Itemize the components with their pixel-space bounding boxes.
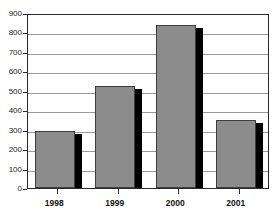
bar-shadow <box>196 28 203 188</box>
y-tick-label: 900 <box>9 10 22 18</box>
y-axis: 0100200300400500600700800900 <box>0 0 25 219</box>
y-tick-mark <box>23 72 27 73</box>
y-tick-label: 700 <box>9 49 22 57</box>
bar-1999 <box>95 86 135 188</box>
x-tick-mark <box>178 189 179 194</box>
chart-title-cropped <box>0 0 275 8</box>
y-tick-label: 300 <box>9 127 22 135</box>
bar-face <box>156 25 196 188</box>
plot-area <box>27 14 269 189</box>
bar-face <box>95 86 135 188</box>
y-tick-mark <box>23 170 27 171</box>
x-tick-label-1999: 1999 <box>105 198 124 208</box>
bar-2001 <box>216 120 256 188</box>
y-tick-label: 500 <box>9 88 22 96</box>
y-tick-mark <box>23 111 27 112</box>
y-tick-mark <box>23 14 27 15</box>
bar-shadow <box>256 123 263 188</box>
y-tick-mark <box>23 150 27 151</box>
bar-1998 <box>35 131 75 188</box>
bar-shadow <box>75 134 82 188</box>
x-tick-mark <box>118 189 119 194</box>
y-tick-label: 400 <box>9 107 22 115</box>
y-tick-mark <box>23 92 27 93</box>
y-tick-label: 0 <box>18 185 22 193</box>
y-tick-mark <box>23 189 27 190</box>
y-tick-label: 800 <box>9 29 22 37</box>
y-tick-label: 200 <box>9 146 22 154</box>
x-tick-label-1998: 1998 <box>45 198 64 208</box>
x-tick-mark <box>239 189 240 194</box>
y-tick-mark <box>23 53 27 54</box>
bar-2000 <box>156 25 196 188</box>
bar-chart-figure: 0100200300400500600700800900 19981999200… <box>0 0 275 219</box>
bar-face <box>35 131 75 188</box>
y-tick-mark <box>23 33 27 34</box>
bars-series <box>28 15 268 188</box>
x-tick-mark <box>57 189 58 194</box>
x-tick-label-2001: 2001 <box>226 198 245 208</box>
bar-face <box>216 120 256 188</box>
x-tick-label-2000: 2000 <box>166 198 185 208</box>
bar-shadow <box>135 89 142 188</box>
y-tick-label: 100 <box>9 166 22 174</box>
y-tick-mark <box>23 131 27 132</box>
y-tick-label: 600 <box>9 68 22 76</box>
